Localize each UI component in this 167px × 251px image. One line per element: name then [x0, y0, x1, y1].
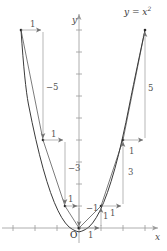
figure-canvas — [0, 0, 167, 251]
parabola-curve — [21, 30, 145, 232]
label-run-origin: 1 — [88, 231, 93, 240]
y-axis-label: y — [72, 16, 77, 25]
point-pos3 — [144, 29, 147, 32]
label-rise-right-5: 5 — [148, 84, 153, 93]
label-run-left-3: 1 — [68, 195, 73, 204]
right-annotations — [79, 32, 145, 228]
curve-equation-exponent: 2 — [147, 5, 151, 12]
curve-equation-label: y = x2 — [124, 6, 151, 17]
label-rise-left-3: −3 — [68, 164, 81, 173]
label-run-left-1: 1 — [30, 20, 35, 29]
label-rise-right-1: 1 — [103, 212, 108, 221]
secant-polyline — [21, 30, 145, 228]
x-axis-label: x — [155, 233, 160, 242]
label-rise-left-5: −5 — [46, 83, 59, 92]
unused2 — [21, 30, 145, 115]
label-run-right-1: 1 — [110, 209, 115, 218]
label-run-right-2: 1 — [129, 147, 134, 156]
label-rise-right-3: 3 — [128, 168, 133, 177]
curve-equation-text: y = x — [124, 7, 147, 17]
axes-group — [2, 14, 158, 243]
label-run-left-2: 1 — [51, 130, 56, 139]
label-rise-left-1: −1 — [86, 204, 99, 213]
parabola-figure: y = x2 y x O 1 1 1 −5 −3 −1 1 1 1 1 3 5 — [0, 0, 167, 251]
curve-points — [20, 29, 147, 230]
origin-label: O — [70, 231, 77, 240]
